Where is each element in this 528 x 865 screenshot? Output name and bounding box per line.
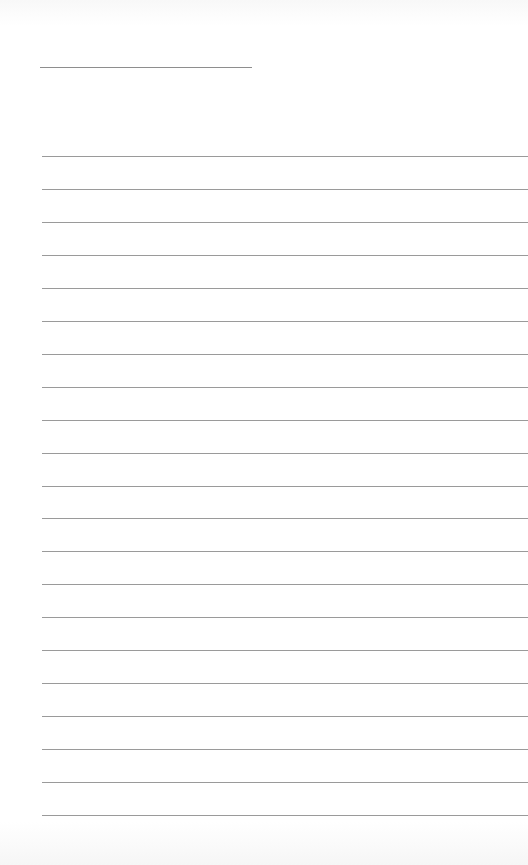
- writing-line: [42, 354, 528, 355]
- writing-line-text[interactable]: [44, 532, 524, 552]
- lined-paper-page: [0, 0, 528, 865]
- writing-line: [42, 518, 528, 519]
- writing-line: [42, 321, 528, 322]
- writing-line: [42, 584, 528, 585]
- writing-line: [42, 782, 528, 783]
- writing-line-text[interactable]: [44, 170, 524, 190]
- writing-line: [42, 222, 528, 223]
- writing-line-text[interactable]: [44, 401, 524, 421]
- writing-line: [42, 288, 528, 289]
- writing-line-text[interactable]: [44, 236, 524, 256]
- title-underline: [40, 67, 252, 68]
- writing-line-text[interactable]: [44, 730, 524, 750]
- writing-line: [42, 617, 528, 618]
- writing-line-text[interactable]: [44, 796, 524, 816]
- writing-line-text[interactable]: [44, 137, 524, 157]
- writing-line: [42, 453, 528, 454]
- writing-line: [42, 189, 528, 190]
- writing-line-text[interactable]: [44, 203, 524, 223]
- writing-line-text[interactable]: [44, 631, 524, 651]
- title-field-text[interactable]: [42, 48, 250, 66]
- writing-line-text[interactable]: [44, 302, 524, 322]
- writing-line: [42, 815, 528, 816]
- writing-line-text[interactable]: [44, 434, 524, 454]
- writing-line-text[interactable]: [44, 565, 524, 585]
- writing-line: [42, 156, 528, 157]
- writing-line-text[interactable]: [44, 763, 524, 783]
- writing-line-text[interactable]: [44, 664, 524, 684]
- writing-line: [42, 551, 528, 552]
- writing-line: [42, 650, 528, 651]
- writing-line: [42, 420, 528, 421]
- writing-line-text[interactable]: [44, 368, 524, 388]
- writing-line-text[interactable]: [44, 269, 524, 289]
- writing-line-text[interactable]: [44, 499, 524, 519]
- writing-line: [42, 387, 528, 388]
- writing-line: [42, 255, 528, 256]
- writing-line: [42, 683, 528, 684]
- writing-line-text[interactable]: [44, 467, 524, 487]
- writing-line: [42, 486, 528, 487]
- writing-line-text[interactable]: [44, 335, 524, 355]
- writing-line: [42, 716, 528, 717]
- writing-line-text[interactable]: [44, 697, 524, 717]
- writing-line: [42, 749, 528, 750]
- writing-line-text[interactable]: [44, 598, 524, 618]
